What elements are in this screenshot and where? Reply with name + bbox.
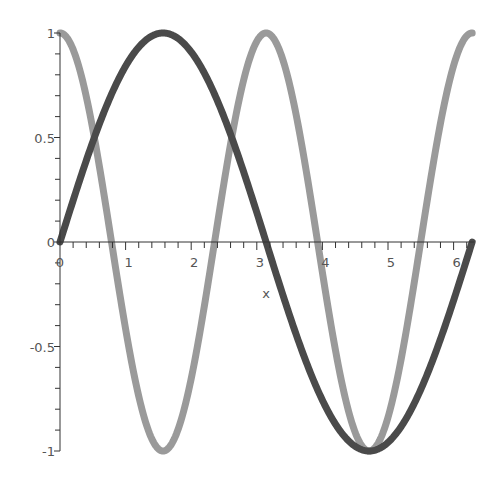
x-axis-label: x xyxy=(262,286,270,301)
x-tick-label: 1 xyxy=(124,255,132,270)
x-tick-label: 0 xyxy=(56,255,64,270)
y-tick-label: 0 xyxy=(47,235,55,250)
line-chart: 012345610.50-0.5-1 x xyxy=(0,0,501,479)
x-tick-label: 2 xyxy=(190,255,198,270)
x-tick-label: 6 xyxy=(452,255,460,270)
y-tick-label: -1 xyxy=(42,444,55,459)
y-tick-label: 0.5 xyxy=(34,131,55,146)
y-tick-label: 1 xyxy=(47,26,55,41)
x-tick-label: 3 xyxy=(256,255,264,270)
axes: 012345610.50-0.5-1 xyxy=(30,26,475,459)
y-tick-label: -0.5 xyxy=(30,340,55,355)
x-tick-label: 5 xyxy=(387,255,395,270)
x-tick-label: 4 xyxy=(321,255,329,270)
